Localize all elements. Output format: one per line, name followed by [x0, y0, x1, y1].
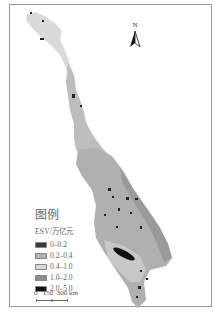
- legend-title: 图例: [35, 205, 74, 223]
- legend-item: 0.4–1.0: [35, 261, 74, 272]
- legend-swatch: [35, 264, 47, 270]
- legend-swatch: [35, 242, 47, 248]
- north-arrow-icon: [128, 23, 142, 49]
- legend-label: 0–0.2: [50, 240, 67, 249]
- legend-item: 1.0–2.0: [35, 272, 74, 283]
- middle-basin-region: [66, 62, 112, 160]
- legend-label: 1.0–2.0: [50, 273, 73, 282]
- legend-item: 0–0.2: [35, 239, 74, 250]
- legend-swatch: [35, 275, 47, 281]
- legend-subtitle: ESV/万亿元: [35, 225, 74, 236]
- legend-item: 0.2–0.4: [35, 250, 74, 261]
- legend-label: 0.2–0.4: [50, 251, 73, 260]
- north-arrow: N: [128, 23, 142, 49]
- legend-swatch: [35, 253, 47, 259]
- legend: 图例 ESV/万亿元 0–0.2 0.2–0.4 0.4–1.0 1.0–2.0…: [35, 205, 74, 294]
- scale-bar-label: 0 150 300 km: [34, 289, 78, 297]
- river-basin-map: [0, 0, 215, 317]
- scale-bar-icon: [36, 299, 68, 302]
- legend-label: 0.4–1.0: [50, 262, 73, 271]
